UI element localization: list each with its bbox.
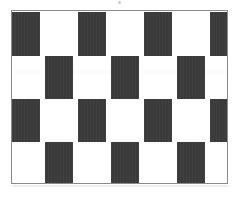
pattern-block-r1-c4 [210,12,228,56]
pattern-block-r3-c2 [78,99,106,142]
row-4 [12,142,227,184]
pattern-block-r2-c3 [177,56,205,99]
pattern-block-r1-c2 [78,12,106,56]
row-2 [12,56,227,99]
figure-root [0,0,243,197]
pattern-block-r4-c1 [45,142,73,184]
pattern-block-r2-c2 [111,56,139,99]
pattern-block-r3-c1 [12,99,40,142]
pattern-block-r3-c4 [210,99,228,142]
pattern-block-r1-c1 [12,12,40,56]
pattern-block-r1-c3 [144,12,172,56]
pattern-block-r4-c3 [177,142,205,184]
scan-speck-icon [118,1,121,4]
pattern-block-r2-c1 [45,56,73,99]
pattern-block-r3-c3 [144,99,172,142]
pattern-frame [11,10,228,184]
row-3 [12,99,227,142]
pattern-block-r4-c2 [111,142,139,184]
row-1 [12,12,227,56]
plate-shadow [13,185,229,187]
